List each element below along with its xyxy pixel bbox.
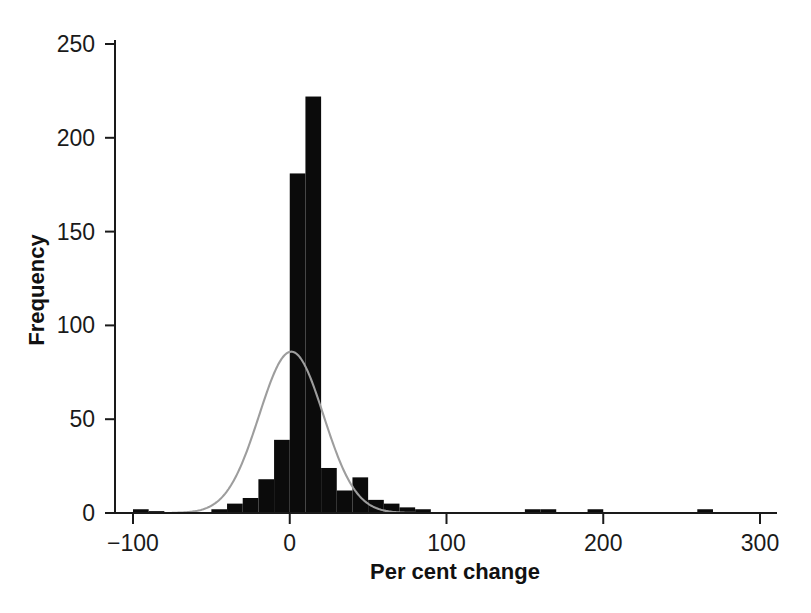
x-tick-label: 300: [741, 530, 779, 556]
x-axis-title: Per cent change: [370, 559, 540, 584]
y-axis-title: Frequency: [24, 234, 49, 346]
x-axis-ticks: [133, 513, 760, 524]
y-axis-ticks: [105, 44, 115, 513]
histogram-bar: [274, 440, 290, 513]
y-tick-label: 0: [82, 500, 95, 526]
y-axis-tick-labels: 050100150200250: [57, 31, 95, 526]
histogram-figure: 050100150200250 −1000100200300 Frequency…: [0, 0, 811, 613]
y-tick-label: 200: [57, 125, 95, 151]
y-tick-label: 150: [57, 219, 95, 245]
x-tick-label: 200: [584, 530, 622, 556]
y-tick-label: 250: [57, 31, 95, 57]
x-axis-tick-labels: −1000100200300: [107, 530, 779, 556]
histogram-bar: [290, 173, 306, 513]
histogram-bar: [258, 479, 274, 513]
y-tick-label: 50: [69, 406, 95, 432]
x-tick-label: 0: [283, 530, 296, 556]
histogram-bar: [227, 504, 243, 513]
histogram-bar: [243, 498, 259, 513]
histogram-bar: [321, 468, 337, 513]
histogram-bar: [337, 490, 353, 513]
x-tick-label: −100: [107, 530, 159, 556]
y-tick-label: 100: [57, 312, 95, 338]
histogram-bar: [352, 477, 368, 513]
histogram-bars: [133, 97, 713, 514]
histogram-bar: [305, 97, 321, 513]
x-tick-label: 100: [427, 530, 465, 556]
plot-canvas: 050100150200250 −1000100200300 Frequency…: [0, 0, 811, 613]
